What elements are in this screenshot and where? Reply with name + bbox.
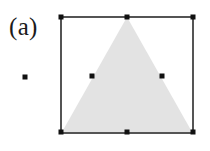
marker-frame-top-center bbox=[125, 15, 130, 20]
marker-frame-bottom-left bbox=[59, 130, 64, 135]
figure-canvas bbox=[0, 0, 210, 151]
marker-triangle-left-mid bbox=[90, 74, 95, 79]
marker-frame-top-right bbox=[191, 15, 196, 20]
marker-frame-bottom-right bbox=[191, 130, 196, 135]
marker-triangle-right-mid bbox=[160, 74, 165, 79]
isolated-point bbox=[23, 75, 28, 80]
filled-triangle bbox=[62, 17, 192, 132]
figure-panel: (a) bbox=[0, 0, 210, 151]
marker-frame-bottom-center bbox=[125, 130, 130, 135]
marker-frame-top-left bbox=[59, 15, 64, 20]
